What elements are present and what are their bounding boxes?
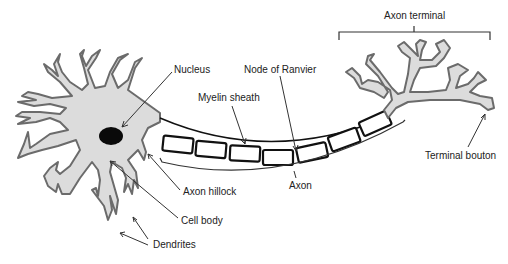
- cell-body-shape: [16, 50, 160, 220]
- label-terminal-bouton: Terminal bouton: [425, 150, 496, 161]
- label-myelin-sheath: Myelin sheath: [198, 92, 260, 103]
- label-node-of-ranvier: Node of Ranvier: [244, 64, 316, 75]
- neuron-illustration: [0, 0, 508, 264]
- neuron-diagram: Nucleus Node of Ranvier Myelin sheath Ax…: [0, 0, 508, 264]
- label-dendrites: Dendrites: [153, 239, 196, 250]
- label-axon: Axon: [289, 180, 312, 191]
- label-cell-body: Cell body: [181, 215, 223, 226]
- myelin-sheath-segments: [162, 111, 392, 165]
- nucleus-shape: [99, 127, 123, 145]
- label-nucleus: Nucleus: [174, 64, 210, 75]
- axon-terminal-shape: [346, 40, 494, 118]
- label-axon-terminal: Axon terminal: [384, 10, 445, 21]
- axon-terminal-bracket: [339, 26, 490, 40]
- label-axon-hillock: Axon hillock: [183, 186, 236, 197]
